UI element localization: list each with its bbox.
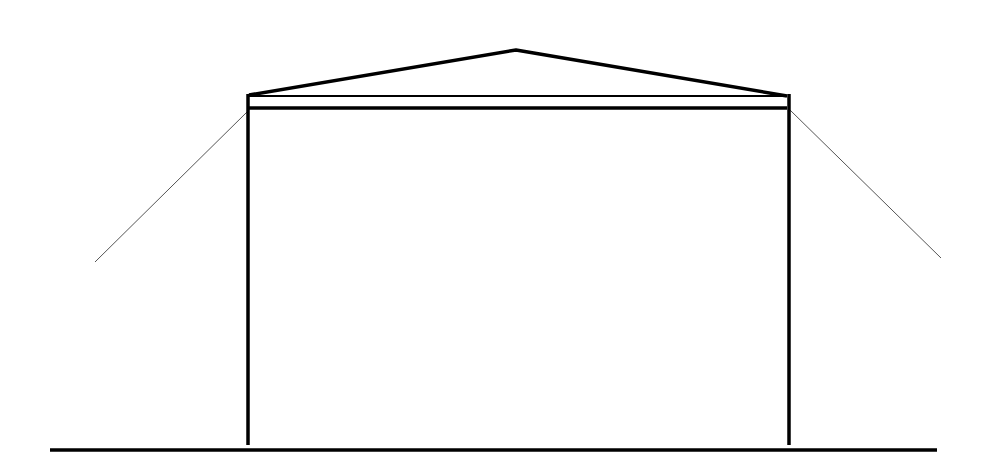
guy-line-left <box>95 112 247 262</box>
roof-outline <box>249 50 787 96</box>
tent-elevation-diagram <box>0 0 986 474</box>
guy-line-right <box>790 110 941 258</box>
